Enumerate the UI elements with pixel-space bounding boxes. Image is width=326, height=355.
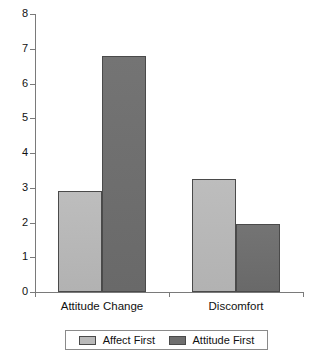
y-tick-label-slot: 6 bbox=[0, 78, 28, 89]
y-tick-6 bbox=[30, 84, 35, 85]
legend-label-affect-first: Affect First bbox=[103, 334, 155, 346]
chart-legend: Affect First Attitude First bbox=[65, 330, 268, 350]
category-label-attitude-change: Attitude Change bbox=[35, 300, 169, 313]
y-tick-8 bbox=[30, 14, 35, 15]
legend-entry-attitude-first: Attitude First bbox=[169, 334, 255, 346]
y-tick-label-slot: 3 bbox=[0, 182, 28, 193]
y-tick-label-slot: 5 bbox=[0, 112, 28, 123]
y-tick-label-5: 5 bbox=[2, 112, 28, 123]
y-tick-label-slot: 0 bbox=[0, 286, 28, 297]
bar-discomfort-attitude-first bbox=[236, 224, 280, 292]
bar-attitude-change-affect-first bbox=[58, 191, 102, 292]
category-label-discomfort: Discomfort bbox=[169, 300, 303, 313]
y-tick-label-4: 4 bbox=[2, 147, 28, 158]
y-tick-1 bbox=[30, 257, 35, 258]
legend-label-attitude-first: Attitude First bbox=[193, 334, 255, 346]
y-tick-label-slot: 2 bbox=[0, 217, 28, 228]
legend-swatch-affect-first bbox=[79, 336, 96, 345]
y-tick-label-slot: 7 bbox=[0, 43, 28, 54]
y-tick-3 bbox=[30, 188, 35, 189]
y-tick-label-1: 1 bbox=[2, 251, 28, 262]
y-tick-5 bbox=[30, 118, 35, 119]
y-tick-label-8: 8 bbox=[2, 8, 28, 19]
bar-attitude-change-attitude-first bbox=[102, 56, 146, 292]
y-tick-label-slot: 1 bbox=[0, 251, 28, 262]
y-tick-label-slot: 8 bbox=[0, 8, 28, 19]
legend-entry-affect-first: Affect First bbox=[79, 334, 155, 346]
x-tick-0 bbox=[35, 292, 36, 297]
bar-chart: 012345678 Attitude ChangeDiscomfort Affe… bbox=[0, 0, 326, 355]
y-tick-4 bbox=[30, 153, 35, 154]
bar-discomfort-affect-first bbox=[192, 179, 236, 292]
y-tick-label-0: 0 bbox=[2, 286, 28, 297]
x-tick-1 bbox=[169, 292, 170, 297]
y-tick-2 bbox=[30, 223, 35, 224]
y-tick-label-7: 7 bbox=[2, 43, 28, 54]
y-tick-7 bbox=[30, 49, 35, 50]
y-tick-label-3: 3 bbox=[2, 182, 28, 193]
legend-swatch-attitude-first bbox=[169, 336, 186, 345]
y-tick-label-2: 2 bbox=[2, 217, 28, 228]
x-tick-2 bbox=[303, 292, 304, 297]
y-axis-line bbox=[35, 14, 36, 293]
y-tick-label-slot: 4 bbox=[0, 147, 28, 158]
y-tick-label-6: 6 bbox=[2, 78, 28, 89]
